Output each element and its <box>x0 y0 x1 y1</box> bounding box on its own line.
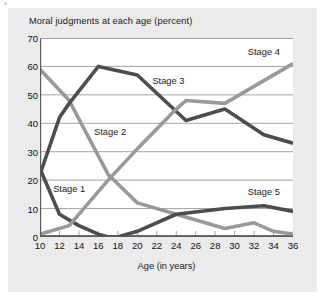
x-tick-label: 26 <box>190 240 201 251</box>
series-annotation-stage-5: Stage 5 <box>248 187 280 197</box>
x-tick-label: 18 <box>113 240 124 251</box>
series-annotation-stage-2: Stage 2 <box>94 127 126 137</box>
x-axis-tick-labels: 1012141618202224262830323436 <box>40 240 293 254</box>
x-tick-label: 24 <box>171 240 182 251</box>
x-tick-label: 14 <box>74 240 85 251</box>
series-annotation-stage-3: Stage 3 <box>152 76 184 86</box>
x-tick-label: 30 <box>229 240 240 251</box>
series-annotation-stage-1: Stage 1 <box>53 184 85 194</box>
y-tick-label: 10 <box>16 203 38 214</box>
x-tick-label: 10 <box>35 240 46 251</box>
x-tick-label: 12 <box>54 240 65 251</box>
x-tick-label: 32 <box>249 240 260 251</box>
x-tick-label: 22 <box>151 240 162 251</box>
x-tick-label: 28 <box>210 240 221 251</box>
chart-figure: Moral judgments at each age (percent) 01… <box>0 0 325 300</box>
y-tick-label: 40 <box>16 118 38 129</box>
y-axis-tick-labels: 010203040506070 <box>12 38 38 237</box>
plot-svg <box>40 38 293 237</box>
y-tick-label: 20 <box>16 175 38 186</box>
x-tick-label: 16 <box>93 240 104 251</box>
corner-speck-icon <box>4 2 7 5</box>
series-annotation-stage-4: Stage 4 <box>248 47 280 57</box>
chart-title: Moral judgments at each age (percent) <box>29 16 192 26</box>
y-tick-label: 30 <box>16 146 38 157</box>
x-tick-label: 36 <box>288 240 299 251</box>
x-tick-label: 20 <box>132 240 143 251</box>
y-tick-label: 50 <box>16 89 38 100</box>
plot-area: Stage 1Stage 2Stage 3Stage 4Stage 5 <box>40 38 293 237</box>
y-tick-label: 70 <box>16 33 38 44</box>
x-tick-label: 34 <box>268 240 279 251</box>
x-axis-title: Age (in years) <box>40 261 293 271</box>
y-tick-label: 60 <box>16 61 38 72</box>
